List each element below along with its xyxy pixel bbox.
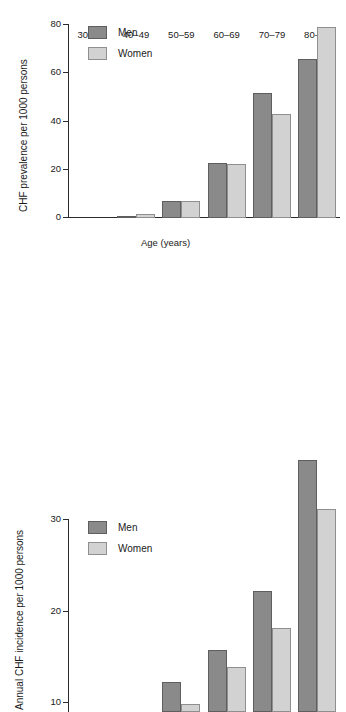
x-category-label: 60–69 bbox=[213, 29, 239, 40]
y-tick-mark bbox=[63, 169, 68, 170]
bar-women-40-49 bbox=[136, 214, 155, 218]
legend-item-men[interactable]: Men bbox=[88, 24, 152, 41]
legend-prevalence: Men Women bbox=[88, 24, 152, 66]
legend-label-women: Women bbox=[118, 543, 152, 554]
bar-men-80-89 bbox=[298, 59, 317, 218]
y-tick-label: 20 bbox=[50, 606, 61, 616]
bar-men-50-59 bbox=[162, 682, 181, 712]
legend-swatch-women-icon bbox=[88, 47, 107, 60]
x-axis-label-age: Age (years) bbox=[141, 237, 190, 248]
bar-men-80-89 bbox=[298, 460, 317, 712]
bar-men-70-79 bbox=[253, 591, 272, 712]
bar-women-60-69 bbox=[227, 667, 246, 712]
y-tick-label: 60 bbox=[50, 68, 61, 78]
bar-women-80-89 bbox=[317, 509, 336, 712]
y-tick-label: 0 bbox=[56, 212, 61, 222]
y-tick-label: 20 bbox=[50, 164, 61, 174]
y-tick-mark bbox=[63, 702, 68, 703]
bar-men-40-49 bbox=[117, 216, 136, 218]
y-tick-mark bbox=[63, 24, 68, 25]
y-tick-label: 40 bbox=[50, 116, 61, 126]
bar-women-70-79 bbox=[272, 114, 291, 218]
bar-men-60-69 bbox=[208, 163, 227, 218]
legend-swatch-men-icon bbox=[88, 26, 107, 39]
y-tick-mark bbox=[63, 217, 68, 218]
bar-women-50-59 bbox=[181, 201, 200, 218]
bar-men-60-69 bbox=[208, 650, 227, 712]
bar-men-70-79 bbox=[253, 93, 272, 218]
legend-incidence: Men Women bbox=[88, 519, 152, 561]
legend-swatch-women-icon bbox=[88, 542, 107, 555]
y-axis-line bbox=[68, 519, 69, 712]
y-axis-label-incidence: Annual CHF incidence per 1000 persons bbox=[14, 530, 25, 710]
chart-panel-prevalence: CHF prevalence per 1000 persons Age (yea… bbox=[0, 0, 346, 248]
legend-item-women[interactable]: Women bbox=[88, 45, 152, 62]
y-tick-mark bbox=[63, 121, 68, 122]
y-tick-label: 30 bbox=[50, 514, 61, 524]
bar-women-50-59 bbox=[181, 704, 200, 712]
bar-women-60-69 bbox=[227, 164, 246, 218]
y-tick-mark bbox=[63, 611, 68, 612]
x-category-label: 50–59 bbox=[168, 29, 194, 40]
bar-women-70-79 bbox=[272, 628, 291, 712]
legend-label-men: Men bbox=[118, 27, 137, 38]
legend-swatch-men-icon bbox=[88, 521, 107, 534]
bar-women-80-89 bbox=[317, 27, 336, 218]
x-category-label: 70–79 bbox=[259, 29, 285, 40]
y-tick-label: 10 bbox=[50, 698, 61, 708]
legend-label-women: Women bbox=[118, 48, 152, 59]
y-tick-mark bbox=[63, 72, 68, 73]
y-tick-mark bbox=[63, 519, 68, 520]
y-axis-label-prevalence: CHF prevalence per 1000 persons bbox=[18, 59, 29, 212]
bar-men-50-59 bbox=[162, 201, 181, 218]
chart-panel-incidence: Annual CHF incidence per 1000 persons 10… bbox=[0, 248, 346, 464]
y-axis-line bbox=[68, 24, 69, 218]
legend-item-men[interactable]: Men bbox=[88, 519, 152, 536]
y-tick-label: 80 bbox=[50, 19, 61, 29]
legend-item-women[interactable]: Women bbox=[88, 540, 152, 557]
legend-label-men: Men bbox=[118, 522, 137, 533]
